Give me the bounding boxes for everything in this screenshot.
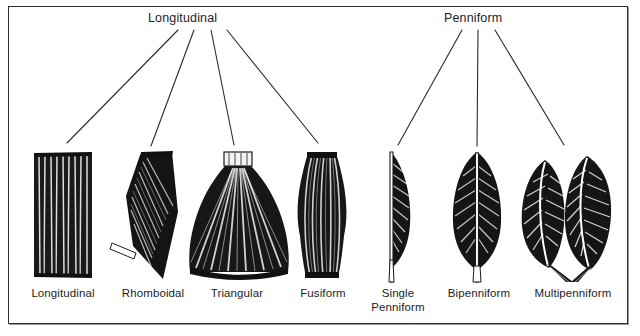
muscle-triangular [189, 152, 289, 280]
leader-line-bipenniform [477, 30, 478, 146]
muscle-fusiform [298, 152, 347, 278]
leader-line-fusiform [227, 30, 318, 143]
leader-lines [67, 30, 564, 146]
group-label-penniform: Penniform [444, 11, 502, 25]
leader-line-multipenniform [495, 30, 564, 145]
group-label-longitudinal: Longitudinal [148, 11, 217, 25]
muscle-multipenniform [522, 156, 611, 282]
caption-multipenniform: Multipenniform [513, 287, 633, 301]
muscle-rhomboidal [110, 151, 178, 279]
leader-line-single-penniform [398, 30, 462, 145]
leader-line-rhomboidal [151, 30, 194, 146]
leader-line-triangular [211, 30, 234, 145]
leader-line-longitudinal [67, 30, 178, 143]
muscle-longitudinal [34, 152, 92, 278]
muscle-bipenniform [453, 152, 501, 282]
figure-canvas [0, 0, 640, 336]
muscle-fiber-arrangement-figure: Longitudinal Penniform Longitudinal Rhom… [0, 0, 640, 336]
muscle-single-penniform [389, 152, 410, 282]
